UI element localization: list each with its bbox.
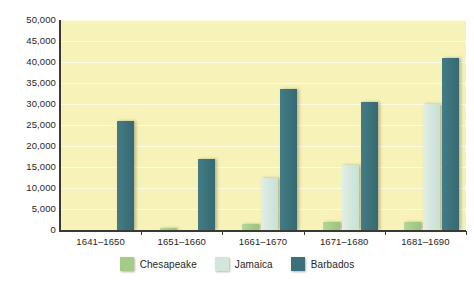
bar-barbados-1671-1680: [361, 102, 378, 230]
x-axis-tick-mark: [304, 231, 305, 235]
legend-label: Jamaica: [235, 259, 273, 270]
bar-barbados-1641-1650: [117, 121, 134, 230]
plot-area: [60, 20, 466, 230]
x-axis-tick-label: 1651–1660: [141, 236, 222, 247]
bar-jamaica-1681-1690: [423, 104, 440, 230]
legend-label: Chesapeake: [140, 259, 197, 270]
bar-jamaica-1671-1680: [342, 165, 359, 230]
y-axis-line: [59, 20, 61, 231]
y-axis-tick-label: 10,000: [4, 183, 56, 193]
legend-label: Barbados: [311, 259, 355, 270]
y-axis-tick-labels: 05,00010,00015,00020,00025,00030,00035,0…: [0, 0, 56, 293]
gridline: [60, 83, 466, 84]
y-axis-tick-label: 30,000: [4, 99, 56, 109]
legend-swatch-barbados: [291, 257, 305, 271]
x-axis-tick-label: 1661–1670: [222, 236, 303, 247]
y-axis-tick-label: 40,000: [4, 57, 56, 67]
y-axis-tick-label: 35,000: [4, 78, 56, 88]
x-axis-tick-mark: [466, 231, 467, 235]
chart-legend: ChesapeakeJamaicaBarbados: [0, 252, 474, 276]
x-axis-tick-label: 1641–1650: [60, 236, 141, 247]
y-axis-tick-label: 45,000: [4, 36, 56, 46]
bar-chesapeake-1671-1680: [323, 222, 340, 230]
bar-barbados-1681-1690: [442, 58, 459, 230]
bar-barbados-1661-1670: [280, 89, 297, 230]
legend-swatch-jamaica: [215, 257, 229, 271]
bar-chesapeake-1681-1690: [404, 222, 421, 230]
x-axis-tick-label: 1671–1680: [304, 236, 385, 247]
y-axis-tick-label: 15,000: [4, 162, 56, 172]
x-axis-tick-label: 1681–1690: [385, 236, 466, 247]
legend-item-barbados: Barbados: [291, 257, 355, 271]
y-axis-tick-label: 0: [4, 225, 56, 235]
legend-item-jamaica: Jamaica: [215, 257, 273, 271]
y-axis-tick-label: 20,000: [4, 141, 56, 151]
x-axis-tick-mark: [385, 231, 386, 235]
y-axis-tick-label: 50,000: [4, 15, 56, 25]
bar-barbados-1651-1660: [198, 159, 215, 230]
gridline: [60, 41, 466, 42]
gridline: [60, 104, 466, 105]
x-axis-tick-mark: [222, 231, 223, 235]
gridline: [60, 62, 466, 63]
bar-jamaica-1661-1670: [261, 178, 278, 231]
legend-swatch-chesapeake: [120, 257, 134, 271]
x-axis-line: [59, 230, 466, 232]
legend-item-chesapeake: Chesapeake: [120, 257, 197, 271]
y-axis-tick-label: 5,000: [4, 204, 56, 214]
y-axis-tick-label: 25,000: [4, 120, 56, 130]
bar-chart-figure: 05,00010,00015,00020,00025,00030,00035,0…: [0, 0, 474, 293]
x-axis-tick-mark: [141, 231, 142, 235]
gridline: [60, 20, 466, 21]
